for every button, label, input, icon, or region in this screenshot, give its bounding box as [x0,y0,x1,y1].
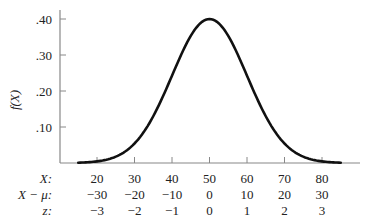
row-value: 80 [316,171,329,186]
row-label: z: [42,203,52,218]
row-value: 20 [278,187,291,202]
row-value: −1 [165,203,179,218]
normal-curve-chart: .10.20.30.40 X:20304050607080X − μ:−30−2… [0,0,377,223]
normal-density-curve [78,19,341,163]
row-value: 2 [281,203,288,218]
x-label-rows: X:20304050607080X − μ:−30−20−100102030z:… [17,171,329,218]
row-value: −3 [90,203,104,218]
row-value: 20 [91,171,104,186]
row-value: 10 [241,187,254,202]
row-value: −2 [128,203,142,218]
row-value: 70 [278,171,291,186]
row-value: 3 [319,203,326,218]
row-label: X: [39,171,52,186]
row-value: 1 [244,203,251,218]
y-tick-label: .40 [36,12,52,27]
y-axis: .10.20.30.40 [36,10,66,163]
row-value: 30 [128,171,141,186]
row-value: 0 [206,203,213,218]
row-value: 60 [241,171,254,186]
row-value: 30 [316,187,329,202]
y-tick-label: .10 [36,120,52,135]
row-value: 0 [206,187,213,202]
row-label: X − μ: [17,187,52,202]
y-axis-label: f(X) [7,90,22,110]
row-value: −30 [87,187,107,202]
row-value: −10 [162,187,182,202]
row-value: 40 [166,171,179,186]
row-value: 50 [203,171,216,186]
y-tick-label: .20 [36,84,52,99]
y-tick-label: .30 [36,48,52,63]
row-value: −20 [124,187,144,202]
